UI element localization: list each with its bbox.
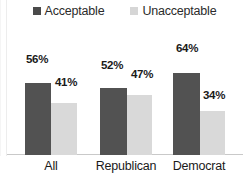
bar-acceptable-democrat	[173, 73, 200, 155]
bar-value-acceptable-republican: 52%	[101, 60, 123, 72]
bar-chart: Acceptable Unacceptable 56% 41% 52% 47% …	[0, 0, 249, 184]
bar-acceptable-all	[25, 83, 51, 155]
x-axis-label-democrat: Democrat	[173, 160, 226, 173]
bar-unacceptable-all	[51, 103, 77, 155]
bar-value-acceptable-all: 56%	[26, 54, 48, 66]
bar-unacceptable-democrat	[200, 111, 225, 155]
bar-value-unacceptable-republican: 47%	[131, 69, 153, 81]
x-axis-label-all: All	[44, 160, 57, 173]
bar-value-acceptable-democrat: 64%	[176, 43, 198, 55]
bar-unacceptable-republican	[127, 95, 152, 155]
plot-area: 56% 41% 52% 47% 64% 34% All Republican D…	[0, 0, 249, 156]
x-axis-label-republican: Republican	[96, 160, 157, 173]
bar-value-unacceptable-democrat: 34%	[203, 90, 225, 102]
bar-acceptable-republican	[100, 88, 127, 155]
bar-value-unacceptable-all: 41%	[55, 77, 77, 89]
